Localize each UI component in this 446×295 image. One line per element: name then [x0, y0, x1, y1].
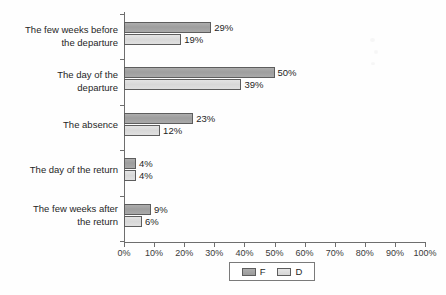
legend-item-f: F	[242, 266, 266, 277]
category-label-2: The absence	[6, 119, 118, 132]
x-axis-tick-label: 80%	[356, 248, 374, 258]
category-label-2-line-0: The absence	[6, 119, 118, 132]
category-label-1-line-1: departure	[6, 82, 118, 95]
category-label-1: The day of the departure	[6, 69, 118, 94]
bar-f-2	[124, 113, 193, 124]
x-axis-tick	[395, 243, 396, 247]
x-axis-tick-label: 20%	[175, 248, 193, 258]
chart-legend: F D	[229, 262, 315, 281]
category-label-0-line-0: The few weeks before	[6, 24, 118, 37]
bar-value-f-3: 4%	[139, 158, 153, 169]
category-label-3: The day of the return	[6, 164, 118, 177]
category-label-0: The few weeks before the departure	[6, 24, 118, 49]
bar-chart: The few weeks before the departure The d…	[0, 0, 446, 295]
y-axis-tick	[120, 105, 124, 106]
bar-value-d-1: 39%	[244, 79, 263, 90]
bar-value-d-3: 4%	[139, 170, 153, 181]
bar-value-f-4: 9%	[154, 204, 168, 215]
bar-f-4	[124, 204, 151, 215]
x-axis-tick-label: 50%	[265, 248, 283, 258]
y-axis-tick	[120, 196, 124, 197]
y-axis-tick	[120, 14, 124, 15]
x-axis-tick-label: 30%	[205, 248, 223, 258]
category-label-4-line-1: the return	[6, 216, 118, 229]
x-axis-tick-label: 40%	[235, 248, 253, 258]
x-axis-tick-label: 10%	[145, 248, 163, 258]
y-axis-tick	[120, 59, 124, 60]
legend-label-f: F	[260, 266, 266, 277]
y-axis-tick	[120, 150, 124, 151]
bar-f-0	[124, 22, 211, 33]
x-axis-tick	[425, 243, 426, 247]
x-axis-tick	[184, 243, 185, 247]
bar-value-d-0: 19%	[184, 34, 203, 45]
x-axis-tick	[305, 243, 306, 247]
bar-d-0	[124, 34, 181, 45]
category-label-1-line-0: The day of the	[6, 69, 118, 82]
x-axis-tick-label: 0%	[117, 248, 130, 258]
bar-value-d-4: 6%	[145, 216, 159, 227]
bar-f-1	[124, 67, 275, 78]
legend-label-d: D	[295, 266, 302, 277]
x-axis-tick	[365, 243, 366, 247]
x-axis-tick	[214, 243, 215, 247]
bar-d-4	[124, 216, 142, 227]
x-axis-tick-label: 90%	[386, 248, 404, 258]
bar-value-d-2: 12%	[163, 125, 182, 136]
legend-swatch-d	[277, 268, 291, 276]
y-axis-tick	[120, 241, 124, 242]
legend-swatch-f	[242, 268, 256, 276]
bar-f-3	[124, 158, 136, 169]
category-label-4: The few weeks after the return	[6, 203, 118, 228]
bar-value-f-0: 29%	[214, 22, 233, 33]
x-axis-tick-label: 100%	[413, 248, 436, 258]
x-axis-tick	[124, 243, 125, 247]
bar-value-f-1: 50%	[278, 67, 297, 78]
bar-d-2	[124, 125, 160, 136]
category-label-3-line-0: The day of the return	[6, 164, 118, 177]
x-axis-tick	[275, 243, 276, 247]
bar-d-1	[124, 79, 241, 90]
x-axis-tick	[335, 243, 336, 247]
x-axis-tick-label: 70%	[326, 248, 344, 258]
category-label-4-line-0: The few weeks after	[6, 203, 118, 216]
x-axis-tick-label: 60%	[296, 248, 314, 258]
x-axis-tick	[244, 243, 245, 247]
category-label-0-line-1: the departure	[6, 37, 118, 50]
x-axis-tick	[154, 243, 155, 247]
bar-d-3	[124, 170, 136, 181]
plot-area: 29% 19% 50% 39% 23% 12% 4% 4% 9% 6%	[124, 14, 425, 242]
bar-value-f-2: 23%	[196, 113, 215, 124]
legend-item-d: D	[277, 266, 302, 277]
